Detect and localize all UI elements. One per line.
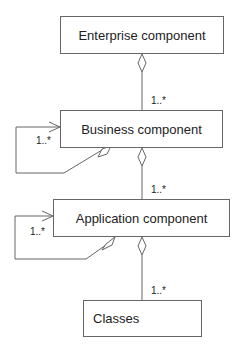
aggregation-diamond-icon (138, 148, 146, 166)
node-classes: Classes (83, 300, 202, 337)
aggregation-diamond-icon (138, 54, 146, 72)
multiplicity-label: 1..* (30, 226, 45, 237)
node-enterprise-component: Enterprise component (60, 16, 224, 54)
multiplicity-label: 1..* (151, 95, 166, 106)
aggregation-diamond-icon (102, 237, 115, 250)
node-business-component: Business component (60, 110, 223, 148)
multiplicity-label: 1..* (36, 135, 51, 146)
node-application-component: Application component (53, 199, 230, 237)
multiplicity-label: 1..* (151, 285, 166, 296)
aggregation-diamond-icon (138, 237, 146, 255)
multiplicity-label: 1..* (151, 184, 166, 195)
